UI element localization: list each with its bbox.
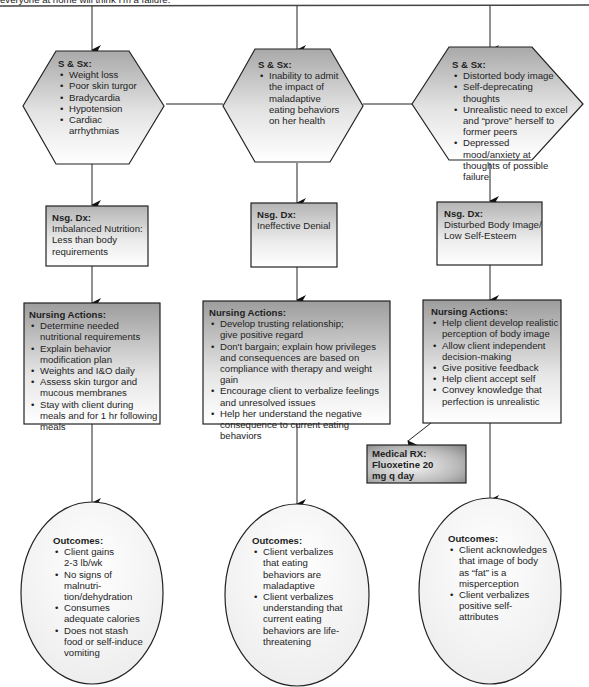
signs-text-col1: S & Sx: Weight loss Poor skin turgor Bra… [58, 58, 163, 136]
list-item: Stay with client during meals and for 1 … [40, 399, 159, 433]
list-item: Depressed mood/anxiety at thoughts of po… [463, 137, 553, 182]
list-item: No signs of malnutri-tion/dehydration [64, 569, 145, 603]
list-item: Bradycardia [69, 92, 163, 103]
actions-text-col2: Nursing Actions: Develop trusting relati… [209, 307, 389, 441]
diagnosis-text: Imbalanced Nutrition: Less than body req… [52, 223, 143, 256]
actions-title: Nursing Actions: [209, 307, 389, 318]
list-item: Give positive feedback [442, 362, 559, 373]
outcomes-title: Outcomes: [448, 533, 548, 544]
signs-title: S & Sx: [452, 59, 570, 70]
diagnosis-title: Nsg. Dx: [52, 212, 148, 223]
signs-text-col2: S & Sx: Inability to admit the impact of… [258, 59, 342, 126]
list-item: Develop trusting relationship; give posi… [220, 318, 355, 340]
list-item: Client verbalizes positive self-attribut… [459, 589, 539, 623]
list-item: Convey knowledge that perfection is unre… [442, 384, 559, 406]
signs-list: Weight loss Poor skin turgor Bradycardia… [58, 69, 163, 136]
diagnosis-text: Disturbed Body Image/ Low Self-Esteem [444, 219, 542, 241]
list-item: Does not stash food or self-induce vomit… [64, 625, 145, 659]
actions-list: Determine needed nutritional requirement… [29, 320, 159, 432]
signs-text-col3: S & Sx: Distorted body image Self-deprec… [452, 59, 570, 182]
list-item: Allow client independent decision-making [442, 340, 559, 362]
list-item: Weight loss [69, 69, 163, 80]
list-item: Don't bargain; explain how privileges an… [220, 341, 389, 386]
outcomes-list: Client gains 2-3 lb/wk No signs of malnu… [53, 546, 145, 658]
diagnosis-title: Nsg. Dx: [257, 209, 335, 220]
diagnosis-text-col1: Nsg. Dx: Imbalanced Nutrition: Less than… [52, 212, 148, 257]
signs-title: S & Sx: [258, 59, 342, 70]
list-item: Client gains 2-3 lb/wk [64, 546, 119, 568]
list-item: Consumes adequate calories [64, 602, 145, 624]
outcomes-title: Outcomes: [53, 535, 145, 546]
list-item: Inability to admit the impact of maladap… [269, 70, 342, 126]
diagnosis-text: Ineffective Denial [257, 220, 330, 231]
list-item: Cardiac arrhythmias [69, 114, 123, 136]
outcomes-text-col2: Outcomes: Client verbalizes that eating … [252, 535, 352, 647]
list-item: Help client accept self [442, 373, 559, 384]
actions-text-col1: Nursing Actions: Determine needed nutrit… [29, 309, 159, 432]
list-item: Client verbalizes understanding that cur… [263, 591, 352, 647]
actions-list: Help client develop realistic perception… [431, 317, 559, 407]
list-item: Self-deprecating thoughts [463, 81, 570, 103]
connector-act3-rx [408, 423, 431, 441]
outcomes-list: Client acknowledges that image of body a… [448, 544, 548, 622]
list-item: Explain behavior modification plan [40, 343, 159, 365]
diagnosis-text-col3: Nsg. Dx: Disturbed Body Image/ Low Self-… [444, 208, 542, 242]
medical-rx-title: Medical RX: [372, 448, 464, 459]
outcomes-text-col1: Outcomes: Client gains 2-3 lb/wk No sign… [53, 535, 145, 658]
outcomes-title: Outcomes: [252, 535, 352, 546]
top-rule [0, 5, 589, 6]
signs-list: Inability to admit the impact of maladap… [258, 70, 342, 126]
actions-title: Nursing Actions: [431, 306, 559, 317]
actions-text-col3: Nursing Actions: Help client develop rea… [431, 306, 559, 407]
medical-rx-value: Fluoxetine 20 mg q day [372, 459, 450, 481]
list-item: Encourage client to verbalize feelings a… [220, 385, 380, 407]
medical-rx-text: Medical RX: Fluoxetine 20 mg q day [372, 448, 464, 482]
list-item: Distorted body image [463, 70, 570, 81]
list-item: Weights and I&O daily [40, 365, 159, 376]
actions-title: Nursing Actions: [29, 309, 159, 320]
diagnosis-text-col2: Nsg. Dx: Ineffective Denial [257, 209, 335, 231]
list-item: Assess skin turgor and mucous membranes [40, 376, 159, 398]
list-item: Client verbalizes that eating behaviors … [263, 546, 345, 591]
list-item: Determine needed nutritional requirement… [40, 320, 159, 342]
outcomes-text-col3: Outcomes: Client acknowledges that image… [448, 533, 548, 623]
diagnosis-title: Nsg. Dx: [444, 208, 542, 219]
signs-list: Distorted body image Self-deprecating th… [452, 70, 570, 182]
list-item: Hypotension [69, 103, 163, 114]
actions-list: Develop trusting relationship; give posi… [209, 318, 389, 441]
list-item: Poor skin turgor [69, 80, 163, 91]
list-item: Help her understand the negative consequ… [220, 408, 389, 442]
list-item: Help client develop realistic perception… [442, 317, 559, 339]
list-item: Client acknowledges that image of body a… [459, 544, 548, 589]
list-item: Unrealistic need to excel and “prove” he… [463, 104, 570, 138]
signs-title: S & Sx: [58, 58, 163, 69]
outcomes-list: Client verbalizes that eating behaviors … [252, 546, 352, 647]
